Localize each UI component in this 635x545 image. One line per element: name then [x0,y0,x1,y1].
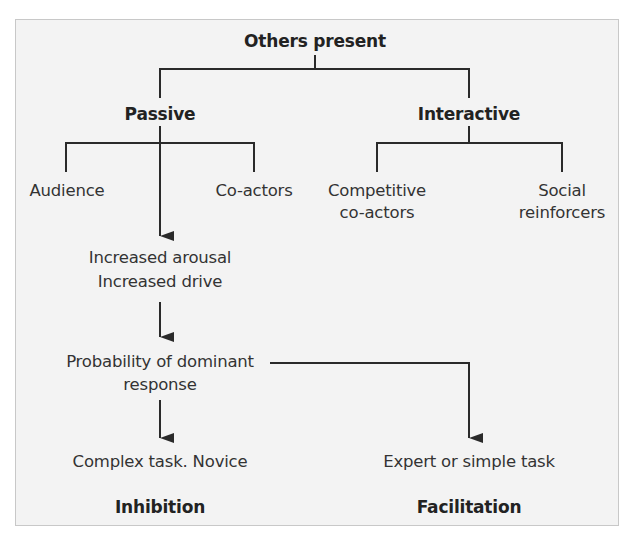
drive-label: Increased drive [98,271,222,293]
competitive-label-line2: co-actors [340,202,415,224]
top-branch-line [160,69,469,98]
passive-label: Passive [125,103,196,125]
interactive-label: Interactive [418,103,520,125]
probability-label-line1: Probability of dominant [66,351,254,373]
complex-task-label: Complex task. Novice [73,451,248,473]
root-label: Others present [244,30,386,52]
social-label-line2: reinforcers [519,202,605,224]
arousal-label: Increased arousal [89,247,232,269]
probability-label-line2: response [123,374,196,396]
competitive-label-line1: Competitive [328,180,426,202]
facilitation-label: Facilitation [417,496,522,518]
coactors-label: Co-actors [215,180,292,202]
social-label-line1: Social [538,180,586,202]
inhibition-label: Inhibition [115,496,205,518]
audience-label: Audience [29,180,104,202]
expert-task-label: Expert or simple task [383,451,555,473]
interactive-branch-line [377,143,562,172]
arrow-to-expert [270,363,469,438]
